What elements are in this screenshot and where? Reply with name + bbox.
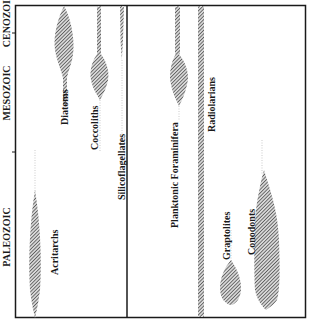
era-label-mesozoic: MESOZOIC <box>1 65 12 120</box>
planktonic-foraminifera-stalk <box>175 6 180 54</box>
taxon-label-acritarchs: Acritarchs <box>49 230 60 275</box>
taxon-label-conodonts: Conodonts <box>246 209 257 255</box>
taxon-label-silicoflagellates: Silicoflagellates <box>116 134 127 200</box>
era-label-cenozoic: CENOZOIC <box>1 0 12 47</box>
taxon-label-diatoms: Diatoms <box>59 89 70 125</box>
radiolarians-range <box>198 6 204 317</box>
taxon-label-graptolites: Graptolites <box>221 212 232 260</box>
silicoflagellates-range <box>120 6 124 60</box>
taxon-label-radiolarians: Radiolarians <box>206 77 217 132</box>
planktonic-foraminifera-range <box>170 52 188 106</box>
taxon-label-planktonic-foraminifera: Planktonic Foraminifera <box>169 122 180 228</box>
range-chart: CENOZOIC MESOZOIC PALEOZOIC Acritarchs D… <box>0 0 309 322</box>
coccoliths-range <box>90 52 108 100</box>
graptolites-range <box>220 260 241 305</box>
conodonts-range <box>254 170 279 310</box>
acritarchs-range <box>29 190 41 318</box>
taxon-label-coccoliths: Coccoliths <box>89 105 100 150</box>
era-label-paleozoic: PALEOZOIC <box>1 207 12 266</box>
coccoliths-stalk <box>97 6 101 54</box>
